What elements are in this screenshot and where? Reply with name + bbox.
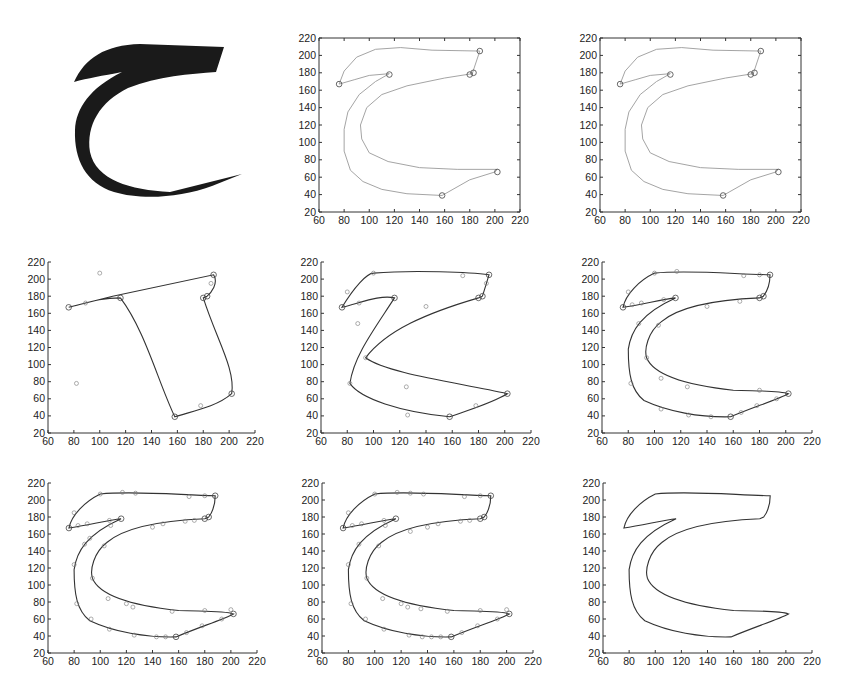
y-tick-label: 120: [582, 562, 600, 574]
fit-final-plot: 6080100120140160180200220204060801001201…: [0, 0, 853, 699]
x-tick-label: 120: [673, 655, 691, 667]
y-tick-label: 140: [582, 545, 600, 557]
x-tick-label: 140: [699, 655, 717, 667]
y-tick-label: 220: [582, 477, 600, 489]
fitted-curve: [624, 493, 789, 637]
x-tick-label: 160: [725, 655, 743, 667]
x-tick-label: 200: [777, 655, 795, 667]
y-tick-label: 40: [588, 630, 600, 642]
x-tick-label: 180: [751, 655, 769, 667]
x-tick-label: 100: [646, 655, 664, 667]
x-tick-label: 220: [803, 655, 821, 667]
y-tick-label: 160: [582, 528, 600, 540]
y-tick-label: 200: [582, 494, 600, 506]
y-tick-label: 60: [588, 613, 600, 625]
axis-frame: [603, 483, 812, 653]
y-tick-label: 100: [582, 579, 600, 591]
y-tick-label: 20: [588, 647, 600, 659]
y-tick-label: 180: [582, 511, 600, 523]
y-tick-label: 80: [588, 596, 600, 608]
x-tick-label: 80: [623, 655, 635, 667]
